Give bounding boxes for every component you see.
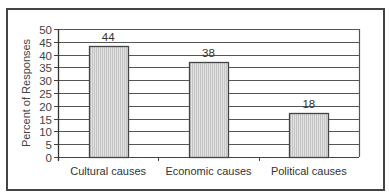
y-tick-label: 35: [39, 62, 52, 74]
data-label: 18: [302, 98, 315, 110]
x-category-label: Political causes: [271, 165, 347, 177]
y-axis-label: Percent of Responses: [20, 38, 32, 147]
y-tick-label: 20: [39, 101, 52, 113]
y-tick-label: 30: [39, 75, 52, 87]
y-tick-label: 40: [39, 50, 52, 62]
x-category-label: Economic causes: [165, 165, 252, 177]
data-label: 44: [102, 31, 115, 43]
y-tick-label: 25: [39, 88, 52, 100]
y-tick-label: 5: [46, 139, 52, 151]
y-tick-label: 50: [39, 24, 52, 36]
y-tick-label: 0: [46, 152, 52, 164]
bar: [290, 114, 329, 158]
y-tick-label: 10: [39, 126, 52, 138]
data-label: 38: [202, 47, 215, 59]
bar: [190, 63, 229, 158]
y-tick-label: 45: [39, 37, 52, 49]
bar: [90, 47, 129, 158]
y-axis-ticks: 05101520253035404550: [39, 24, 58, 164]
x-category-label: Cultural causes: [70, 165, 146, 177]
bar-chart: 05101520253035404550 443818 Cultural cau…: [0, 0, 389, 196]
y-tick-label: 15: [39, 114, 52, 126]
